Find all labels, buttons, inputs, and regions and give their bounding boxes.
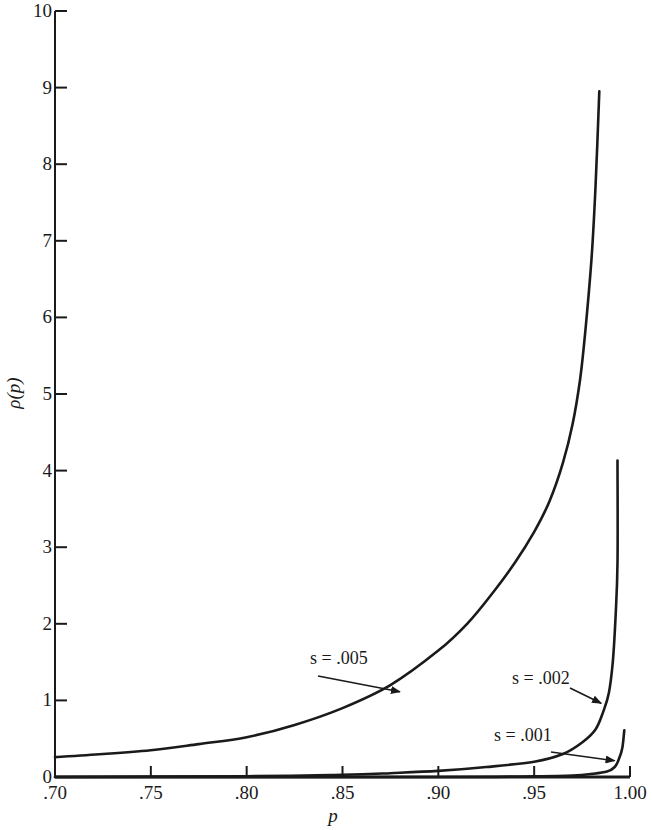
annotation-arrow — [570, 688, 601, 703]
y-axis-title: ρ(p) — [3, 377, 25, 409]
annotation-arrow — [318, 676, 400, 692]
x-axis: .70.75.80.85.90.951.00 — [43, 766, 647, 803]
y-tick-label: 5 — [43, 383, 53, 404]
curve-annotation-label: s = .005 — [310, 648, 368, 668]
y-tick-label: 7 — [43, 230, 53, 251]
x-tick-label: .90 — [426, 782, 450, 803]
y-tick-label: 2 — [43, 613, 53, 634]
annotation-arrow — [551, 752, 615, 761]
x-tick-label: .75 — [139, 782, 163, 803]
x-axis-title: p — [326, 805, 338, 826]
x-tick-label: .70 — [43, 782, 67, 803]
y-axis: 012345678910 — [33, 0, 67, 787]
x-tick-label: .85 — [331, 782, 355, 803]
annotations: s = .005s = .002s = .001 — [310, 648, 615, 761]
y-tick-label: 6 — [43, 306, 53, 327]
curve-annotation-label: s = .002 — [512, 668, 570, 688]
chart: 012345678910 .70.75.80.85.90.951.00 s = … — [0, 0, 652, 830]
y-tick-label: 10 — [33, 0, 52, 21]
curve-annotation-label: s = .001 — [494, 725, 552, 745]
y-tick-label: 8 — [43, 153, 53, 174]
y-tick-label: 9 — [43, 77, 53, 98]
y-tick-label: 4 — [43, 460, 53, 481]
x-tick-label: .80 — [235, 782, 259, 803]
y-tick-label: 3 — [43, 536, 53, 557]
y-tick-label: 1 — [43, 689, 53, 710]
x-tick-label: .95 — [522, 782, 546, 803]
x-tick-label: 1.00 — [613, 782, 646, 803]
